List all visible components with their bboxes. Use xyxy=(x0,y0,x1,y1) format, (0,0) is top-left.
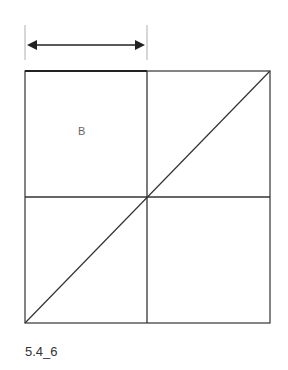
figure-caption: 5.4_6 xyxy=(25,344,58,359)
region-label-b: B xyxy=(78,125,85,137)
square-diagram xyxy=(0,0,288,370)
dimension-arrow-icon xyxy=(27,40,145,50)
